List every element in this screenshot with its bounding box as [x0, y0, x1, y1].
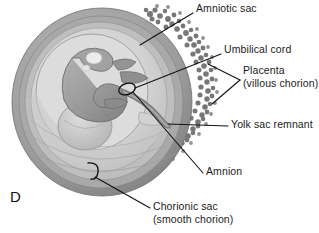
embryo-highlight [86, 52, 102, 64]
label-placenta-line2: (villous chorion) [243, 77, 318, 90]
label-yolk-sac-remnant: Yolk sac remnant [231, 118, 313, 131]
label-placenta-line1: Placenta [243, 64, 318, 77]
label-yolk-sac-remnant-line1: Yolk sac remnant [231, 118, 313, 130]
label-umbilical-cord: Umbilical cord [224, 43, 291, 56]
label-amniotic-sac-line1: Amniotic sac [196, 2, 257, 14]
label-amnion: Amnion [206, 165, 242, 178]
label-amnion-line1: Amnion [206, 165, 242, 177]
label-chorionic-sac-line1: Chorionic sac [153, 200, 233, 213]
label-amniotic-sac: Amniotic sac [196, 2, 257, 15]
label-placenta: Placenta (villous chorion) [243, 64, 318, 89]
label-chorionic-sac-line2: (smooth chorion) [153, 213, 233, 226]
label-umbilical-cord-line1: Umbilical cord [224, 43, 291, 55]
label-chorionic-sac: Chorionic sac (smooth chorion) [153, 200, 233, 225]
panel-letter: D [10, 188, 21, 205]
chorionic-sac-illustration [0, 0, 319, 233]
